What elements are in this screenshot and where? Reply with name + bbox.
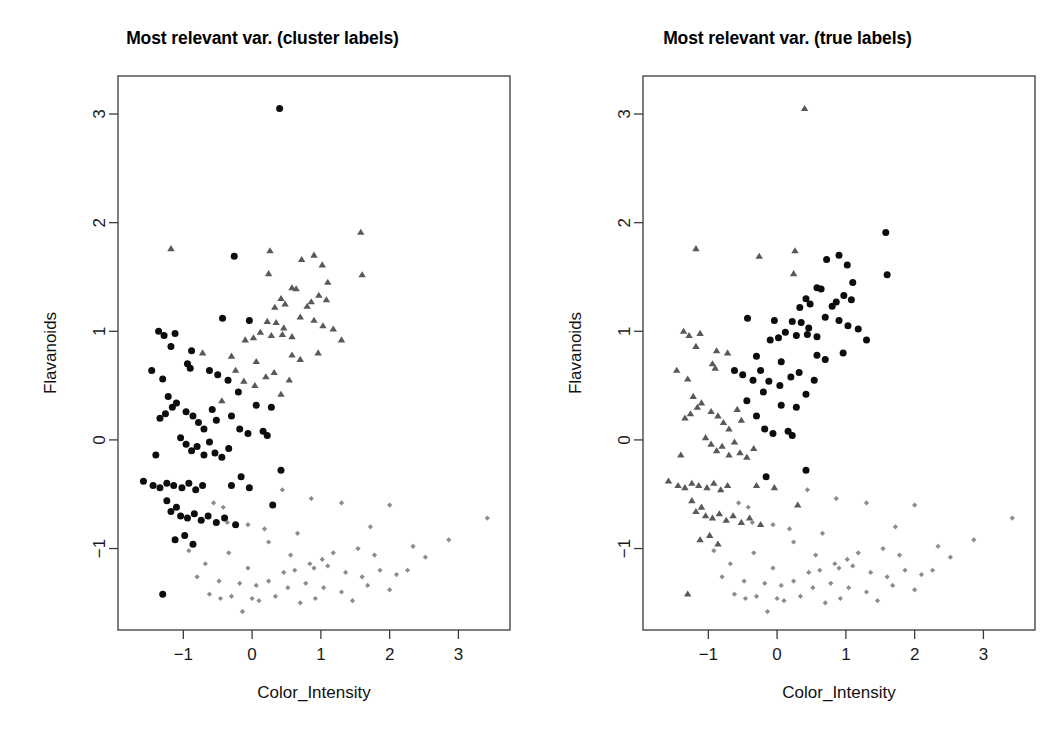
data-point (308, 298, 315, 304)
data-point (684, 591, 691, 597)
data-point (159, 376, 166, 383)
data-point (793, 332, 800, 339)
data-point (756, 253, 763, 259)
data-point (192, 486, 199, 493)
data-point (206, 367, 213, 374)
data-point (240, 609, 245, 614)
data-point (754, 594, 759, 599)
data-point (423, 555, 428, 560)
data-point (159, 591, 166, 598)
data-point (268, 404, 275, 411)
data-point (240, 378, 247, 384)
data-point (838, 596, 843, 601)
data-point (805, 325, 812, 332)
data-point (225, 445, 232, 452)
data-point (199, 349, 206, 355)
data-point (844, 262, 851, 269)
data-point (277, 467, 284, 474)
data-point (751, 550, 756, 555)
data-point (231, 253, 238, 260)
data-point (832, 561, 837, 566)
data-point (184, 515, 191, 522)
data-point (310, 252, 317, 258)
data-point (172, 536, 179, 543)
data-point (868, 570, 873, 575)
data-point (820, 531, 825, 536)
data-point (698, 399, 705, 405)
data-point (315, 292, 322, 298)
data-point (912, 502, 917, 507)
data-point (200, 452, 207, 459)
plot-frame (118, 76, 510, 630)
y-axis-title: Flavanoids (41, 312, 60, 394)
data-point (268, 332, 275, 338)
data-point (271, 304, 278, 310)
data-point (244, 430, 251, 437)
y-tick-label: 1 (91, 327, 110, 336)
data-point (170, 482, 177, 489)
data-point (736, 449, 743, 455)
data-point (262, 526, 267, 531)
data-point (330, 325, 337, 331)
data-point (163, 480, 170, 487)
data-point (246, 317, 253, 324)
data-point (292, 568, 297, 573)
data-point (791, 539, 796, 544)
data-point (864, 500, 869, 505)
data-point (221, 505, 226, 510)
data-point (245, 522, 250, 527)
data-point (806, 570, 811, 575)
x-tick-label: 0 (247, 645, 256, 664)
data-point (150, 482, 157, 489)
plot-area-cluster: −10123−10123Color_IntensityFlavanoids (0, 0, 525, 738)
data-point (214, 371, 221, 378)
data-point (717, 486, 724, 492)
data-point (245, 565, 250, 570)
data-point (674, 482, 681, 488)
data-point (746, 505, 751, 510)
data-point (162, 410, 169, 417)
data-point (276, 105, 283, 112)
data-point (791, 247, 798, 253)
data-point (688, 480, 695, 486)
data-points-layer (140, 105, 490, 614)
data-point (736, 500, 741, 505)
data-point (161, 332, 168, 339)
data-point (188, 447, 195, 454)
data-point (152, 452, 159, 459)
data-point (218, 397, 225, 403)
data-point (277, 391, 284, 397)
data-point (849, 279, 856, 286)
data-point (724, 349, 731, 355)
data-point (760, 389, 767, 396)
data-point (840, 350, 847, 357)
data-point (319, 322, 326, 328)
data-point (802, 391, 809, 398)
data-point (310, 317, 317, 323)
data-point (298, 256, 305, 262)
x-tick-label: 1 (841, 645, 850, 664)
data-point (266, 579, 271, 584)
x-tick-label: 3 (454, 645, 463, 664)
data-point (339, 500, 344, 505)
data-point (729, 512, 736, 518)
data-point (410, 544, 415, 549)
data-point (177, 434, 184, 441)
data-point (206, 439, 213, 446)
data-point (746, 514, 753, 520)
data-point (167, 245, 174, 251)
data-point (789, 432, 796, 439)
x-tick-label: 2 (910, 645, 919, 664)
data-point (680, 328, 687, 334)
data-point (228, 353, 235, 359)
data-point (885, 574, 890, 579)
data-point (834, 496, 839, 501)
data-point (194, 443, 201, 450)
data-point (813, 352, 820, 359)
data-point (156, 415, 163, 422)
data-point (277, 295, 284, 301)
data-point (724, 482, 731, 488)
data-point (844, 322, 851, 329)
data-point (770, 522, 775, 527)
data-point (948, 555, 953, 560)
